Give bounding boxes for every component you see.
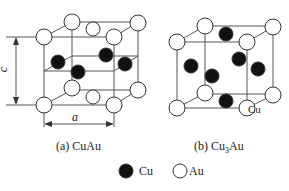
caption-b: (b) Cu3Au — [194, 139, 244, 155]
dimension-arrows — [13, 37, 114, 127]
dimension-a-label: a — [72, 110, 78, 125]
caption-b-prefix: (b) Cu — [194, 139, 225, 153]
crystal-structure-diagram — [0, 0, 289, 191]
cu-atom-label: Cu — [248, 103, 261, 115]
cu3au-atoms — [169, 18, 281, 116]
dimension-c-label: c — [0, 67, 11, 72]
caption-a: (a) CuAu — [56, 139, 101, 154]
caption-b-suffix: Au — [229, 139, 244, 153]
cuau-atoms — [36, 14, 146, 113]
legend-cu-label: Cu — [139, 164, 153, 179]
legend-au-label: Au — [189, 164, 204, 179]
